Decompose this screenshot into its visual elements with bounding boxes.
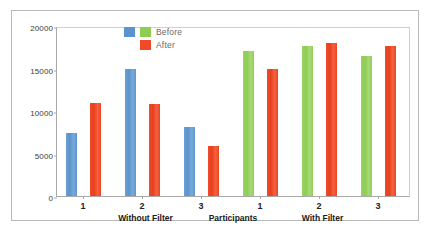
x-axis-tick-mark xyxy=(142,196,143,199)
y-axis-tick-label: 20000 xyxy=(30,24,53,33)
bar xyxy=(208,146,219,196)
x-axis-tick-mark xyxy=(201,196,202,199)
legend-label-after: After xyxy=(156,40,175,50)
bar xyxy=(243,51,254,196)
bar xyxy=(361,56,372,196)
legend-swatch-after-red xyxy=(140,40,151,50)
bar xyxy=(302,46,313,196)
chart-figure: 05000100001500020000 123123Without Filte… xyxy=(11,10,419,221)
y-axis-tick-label: 10000 xyxy=(30,109,53,118)
legend-swatch-before-blue xyxy=(124,27,135,37)
bar-series-container xyxy=(57,28,409,196)
bar xyxy=(267,69,278,196)
legend-item-before: Before xyxy=(124,25,182,38)
chart-legend: Before After xyxy=(124,25,182,51)
legend-swatch-spacer xyxy=(124,40,135,50)
bar xyxy=(184,127,195,196)
x-axis-tick-label: 3 xyxy=(198,201,203,211)
legend-label-before: Before xyxy=(156,27,182,37)
bar xyxy=(90,103,101,196)
x-axis-tick-label: 1 xyxy=(257,201,262,211)
y-axis-tick-label: 5000 xyxy=(35,151,53,160)
x-axis-tick-label: 1 xyxy=(80,201,85,211)
x-axis-title: Participants xyxy=(209,213,258,223)
x-axis-tick-mark xyxy=(378,196,379,199)
legend-item-after: After xyxy=(124,38,182,51)
y-axis-tick-mark xyxy=(54,198,57,199)
x-axis-tick-mark xyxy=(319,196,320,199)
bar xyxy=(326,43,337,196)
x-axis-group-label: With Filter xyxy=(302,213,343,223)
x-axis-tick-label: 3 xyxy=(375,201,380,211)
x-axis-tick-mark xyxy=(260,196,261,199)
bar xyxy=(125,69,136,197)
y-axis-tick-label: 15000 xyxy=(30,66,53,75)
y-axis-tick-label: 0 xyxy=(48,194,53,203)
x-axis-tick-mark xyxy=(83,196,84,199)
plot-area: 05000100001500020000 123123Without Filte… xyxy=(56,27,410,197)
bar xyxy=(66,133,77,196)
x-axis-tick-label: 2 xyxy=(316,201,321,211)
x-axis-group-label: Without Filter xyxy=(118,213,173,223)
bar xyxy=(149,104,160,196)
legend-swatch-before-green xyxy=(140,27,151,37)
x-axis-tick-label: 2 xyxy=(139,201,144,211)
bar xyxy=(385,46,396,196)
